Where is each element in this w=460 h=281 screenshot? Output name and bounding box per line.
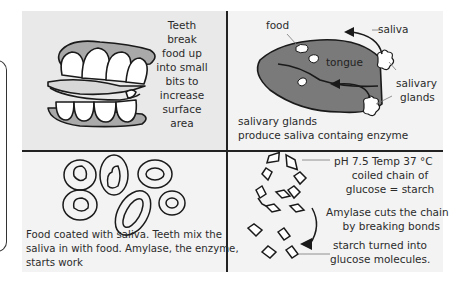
caption-line: Teeth [152, 18, 212, 32]
caption-line: Amylase cuts the chain [326, 205, 440, 219]
caption-line: break [152, 32, 212, 46]
caption-line: area [152, 116, 212, 130]
caption-line: glucose = starch [340, 182, 440, 196]
caption-line: salivary glands [238, 114, 408, 128]
conditions-label: pH 7.5 Temp 37 °C [334, 154, 433, 168]
label-tongue: tongue [326, 55, 363, 69]
caption-line: into small [152, 60, 212, 74]
caption-line: produce saliva containg enzyme [238, 128, 408, 142]
caption-line: by breaking bonds [326, 219, 440, 233]
teeth-caption: Teeth break food up into small bits to i… [152, 18, 212, 130]
caption-line: saliva in with food. Amylase, the enzyme… [26, 242, 239, 256]
caption-line: food up [152, 46, 212, 60]
caption-line: coiled chain of [340, 168, 440, 182]
caption-line: bits to [152, 74, 212, 88]
tongue-illustration [258, 27, 396, 116]
caption-line: Food coated with saliva. Teeth mix the [26, 228, 239, 242]
teeth-illustration [48, 41, 155, 127]
glucose-result-label: starch turned into glucose molecules. [330, 238, 430, 266]
amylase-label: Amylase cuts the chain by breaking bonds [326, 205, 440, 233]
starch-chain-label: coiled chain of glucose = starch [340, 168, 440, 196]
caption-line: glucose molecules. [330, 252, 430, 266]
caption-line: increase [152, 88, 212, 102]
starch-chain-illustration [248, 149, 330, 258]
caption-line: surface [152, 102, 212, 116]
mixing-caption: Food coated with saliva. Teeth mix the s… [26, 228, 239, 270]
label-salivary: salivary [396, 76, 437, 90]
tongue-caption: salivary glands produce saliva containg … [238, 114, 408, 142]
label-glands: glands [400, 90, 435, 104]
label-food: food [266, 18, 289, 32]
caption-line: starch turned into [330, 238, 430, 252]
caption-line: starts work [26, 256, 239, 270]
label-saliva: saliva [378, 22, 408, 36]
